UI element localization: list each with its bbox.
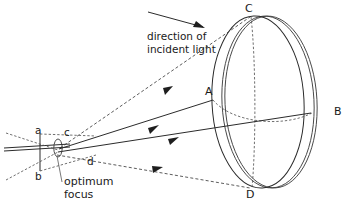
ray-diagram-figure: direction of incident light optimum focu… — [0, 0, 348, 207]
label-point-d: D — [246, 189, 254, 202]
ray-b-arrowhead — [168, 137, 179, 145]
vertical-axis-dashed — [251, 17, 255, 188]
cone-lower-dashed — [6, 152, 58, 180]
label-point-b: B — [334, 106, 342, 119]
incident-light-caption-line2: incident light — [147, 43, 216, 55]
incident-light-arrowhead — [193, 21, 205, 28]
ray-focus-to-a-solid — [59, 100, 213, 149]
optimum-focus-leader — [57, 156, 62, 182]
label-point-c: C — [245, 3, 253, 16]
back-rim-arc-dashed — [213, 100, 312, 122]
optimum-focus-caption-line2: focus — [64, 189, 93, 202]
front-rim-ellipse — [208, 14, 309, 191]
ray-a-arrowhead — [148, 125, 159, 134]
ray-d-arrowhead — [152, 166, 163, 173]
label-point-b-lower: b — [35, 170, 42, 182]
label-point-d-lower: d — [87, 155, 94, 167]
label-point-c-lower: c — [64, 126, 70, 138]
incident-light-caption-line1: direction of — [147, 30, 206, 42]
label-point-a-lower: a — [35, 124, 41, 136]
rim-thickness-ellipse — [218, 14, 319, 191]
back-rim-ellipse — [221, 14, 322, 191]
label-point-a: A — [205, 86, 213, 99]
ray-c-arrowhead — [163, 86, 173, 95]
ray-focus-to-b-solid — [58, 113, 311, 152]
